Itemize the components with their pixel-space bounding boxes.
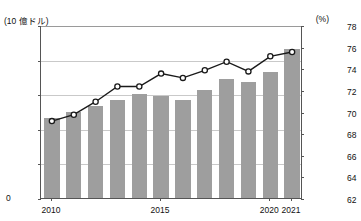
- data-point-marker: [137, 84, 142, 89]
- data-point-marker: [290, 49, 295, 54]
- x-axis-tick-mark: [291, 198, 292, 201]
- chart-title: [0, 0, 333, 3]
- data-point-marker: [71, 112, 76, 117]
- right-axis-tick-label: 62: [347, 195, 361, 205]
- x-axis-tick-mark: [160, 198, 161, 201]
- line-series: [41, 26, 303, 199]
- data-point-marker: [224, 59, 229, 64]
- x-axis-tick-label: 2021: [282, 205, 301, 215]
- data-point-marker: [159, 71, 164, 76]
- right-axis-tick-label: 70: [347, 109, 361, 119]
- line-path: [52, 52, 292, 121]
- x-axis-tick-label: 2020: [260, 205, 279, 215]
- right-axis-tick-label: 68: [347, 130, 361, 140]
- right-axis-tick-label: 74: [347, 65, 361, 75]
- left-axis-tick-mark: [38, 199, 41, 200]
- right-axis-tick-mark: [301, 199, 304, 200]
- x-axis-tick-label: 2010: [41, 205, 60, 215]
- y-axis-zero-label: 0: [6, 193, 11, 203]
- right-axis-unit-label: (%): [316, 14, 329, 24]
- data-point-marker: [268, 54, 273, 59]
- right-axis-tick-label: 78: [347, 22, 361, 32]
- right-axis-tick-label: 64: [347, 173, 361, 183]
- data-point-marker: [115, 84, 120, 89]
- x-axis-labels: 2010201520202021: [40, 201, 302, 217]
- data-point-marker: [180, 75, 185, 80]
- right-axis-tick-label: 66: [347, 152, 361, 162]
- data-point-marker: [49, 119, 54, 124]
- right-axis-tick-label: 72: [347, 87, 361, 97]
- x-axis-tick-mark: [51, 198, 52, 201]
- data-point-marker: [246, 69, 251, 74]
- left-axis-unit-label: (10 億ドル): [4, 14, 48, 26]
- data-point-marker: [202, 68, 207, 73]
- x-axis-tick-mark: [269, 198, 270, 201]
- right-axis-tick-label: 76: [347, 44, 361, 54]
- x-axis-tick-label: 2015: [151, 205, 170, 215]
- data-point-marker: [93, 99, 98, 104]
- plot-area: 5001,0001,5002,0002,500 6264666870727476…: [40, 26, 302, 199]
